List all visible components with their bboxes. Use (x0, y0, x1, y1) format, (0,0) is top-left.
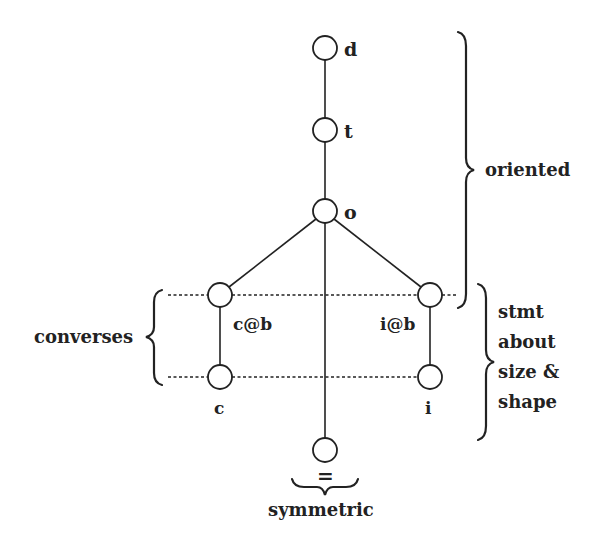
group-label-symmetric: symmetric (268, 499, 374, 520)
converses-brace (146, 290, 162, 385)
node-t (313, 118, 337, 142)
group-label-stmt-4: shape (498, 391, 557, 412)
label-eq: = (317, 464, 334, 488)
node-cb (208, 283, 232, 307)
group-label-converses: converses (34, 326, 133, 347)
group-label-stmt-3: size & (498, 361, 559, 382)
node-ib (418, 283, 442, 307)
relation-hierarchy-diagram: d t o c@b i@b c i = oriented stmt about … (0, 0, 595, 545)
label-cb: c@b (233, 314, 272, 334)
label-d: d (344, 38, 357, 60)
label-o: o (344, 201, 357, 223)
node-c (208, 365, 232, 389)
group-label-stmt-1: stmt (498, 301, 544, 322)
node-o (313, 199, 337, 223)
stmt-brace (478, 284, 494, 440)
edge-o-ib (334, 219, 421, 287)
node-eq (313, 438, 337, 462)
label-t: t (344, 120, 353, 142)
label-ib: i@b (380, 314, 415, 334)
label-i: i (425, 398, 432, 418)
group-label-stmt-2: about (498, 331, 556, 352)
node-d (313, 36, 337, 60)
label-c: c (214, 398, 224, 418)
oriented-brace (458, 32, 474, 308)
edge-o-cb (229, 219, 316, 287)
node-i (418, 365, 442, 389)
group-label-oriented: oriented (485, 159, 571, 180)
